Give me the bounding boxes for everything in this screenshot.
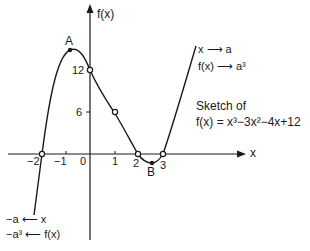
function-curve xyxy=(34,46,196,215)
x-tick-label-2: 2 xyxy=(133,158,139,169)
x-tick-label-0: 0 xyxy=(80,156,86,167)
caption-line-2: f(x) = x³−3x²−4x+12 xyxy=(196,117,301,128)
point-a-label: A xyxy=(65,36,73,47)
right-limit-f-annotation: f(x) ⟶ a³ xyxy=(198,61,246,72)
x-tick-label-neg2: −2 xyxy=(27,156,40,167)
point-b-label: B xyxy=(147,167,155,178)
y-axis-label: f(x) xyxy=(97,9,114,20)
open-point-markers xyxy=(39,67,165,156)
y-axis-arrow-icon xyxy=(87,4,94,13)
y-tick-label-6: 6 xyxy=(76,107,82,118)
left-limit-x-annotation: −a ⟵ x xyxy=(6,214,46,225)
y-tick-label-12: 12 xyxy=(72,65,84,76)
x-axis-arrow-icon xyxy=(237,151,246,158)
x-tick-label-3: 3 xyxy=(160,160,166,171)
right-limit-x-annotation: x ⟶ a xyxy=(198,44,232,55)
caption-line-1: Sketch of xyxy=(196,101,246,112)
x-axis-label: x xyxy=(250,148,256,159)
point-a-marker xyxy=(68,48,72,52)
left-limit-f-annotation: −a³ ⟵ f(x) xyxy=(6,229,60,240)
x-tick-label-neg1: −1 xyxy=(54,156,67,167)
x-tick-label-1: 1 xyxy=(112,156,118,167)
